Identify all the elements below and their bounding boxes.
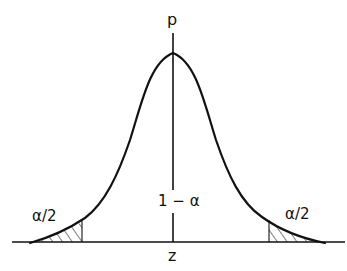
bell-curve [30,53,325,243]
normal-curve-diagram [0,0,347,271]
y-axis-label: p [167,12,177,28]
x-axis-label: z [168,248,176,264]
center-region-label: 1 − α [158,194,200,209]
right-tail-label: α/2 [285,207,310,222]
left-tail-label: α/2 [32,209,57,224]
